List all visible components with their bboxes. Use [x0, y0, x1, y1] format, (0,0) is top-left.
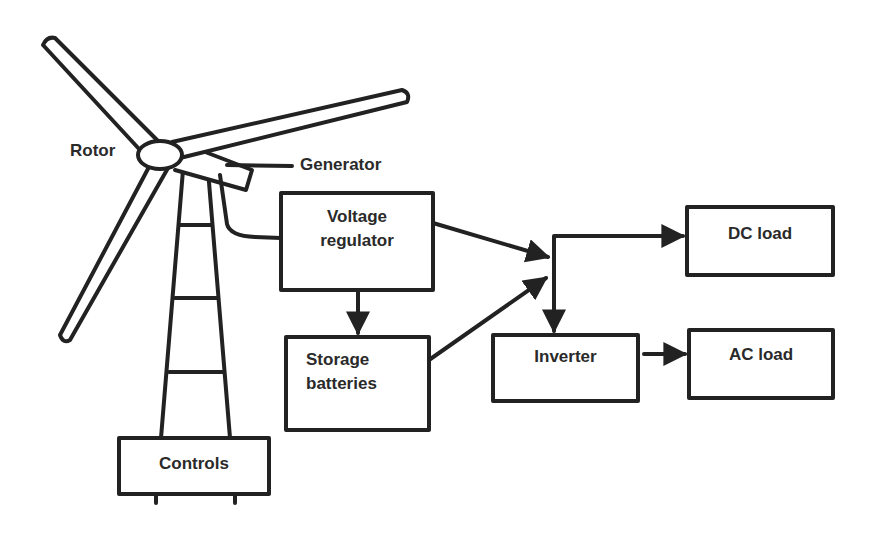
voltage-regulator-line1: Voltage [281, 205, 433, 229]
dc-load-label: DC load [687, 222, 833, 246]
voltage-regulator-text: Voltage regulator [281, 205, 433, 253]
rotor-blades [43, 38, 408, 342]
tower [161, 170, 230, 438]
rotor-label: Rotor [70, 141, 115, 161]
generator-label: Generator [300, 155, 381, 175]
rotor-hub [138, 141, 182, 169]
inverter-label: Inverter [493, 345, 638, 369]
storage-batteries-line1: Storage [306, 348, 377, 372]
controls-label: Controls [119, 452, 269, 476]
storage-batteries-text: Storage batteries [306, 348, 377, 396]
storage-batteries-line2: batteries [306, 372, 377, 396]
voltage-regulator-line2: regulator [281, 229, 433, 253]
ac-load-label: AC load [689, 343, 833, 367]
